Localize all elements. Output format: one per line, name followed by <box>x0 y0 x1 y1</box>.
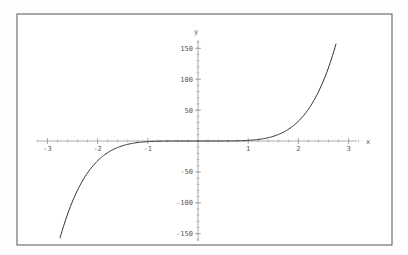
x-tick-label: 2 <box>296 145 300 153</box>
x-tick-label: 1 <box>246 145 250 153</box>
y-tick-label: -50 <box>180 168 193 176</box>
x-tick-label: 3 <box>346 145 350 153</box>
x-tick-label: -1 <box>144 145 152 153</box>
y-tick-label: -100 <box>176 199 193 207</box>
plot-frame <box>17 14 392 245</box>
y-tick-label: -150 <box>176 230 193 238</box>
y-tick-label: 150 <box>180 45 193 53</box>
y-tick-label: 100 <box>180 76 193 84</box>
plot: -3-2-1123-150-100-5050100150 x y <box>0 0 408 255</box>
x-tick-label: -3 <box>43 145 51 153</box>
y-tick-label: 50 <box>185 107 193 115</box>
y-axis-label: y <box>194 28 198 36</box>
x-axis-label: x <box>366 138 370 146</box>
x-tick-label: -2 <box>93 145 101 153</box>
